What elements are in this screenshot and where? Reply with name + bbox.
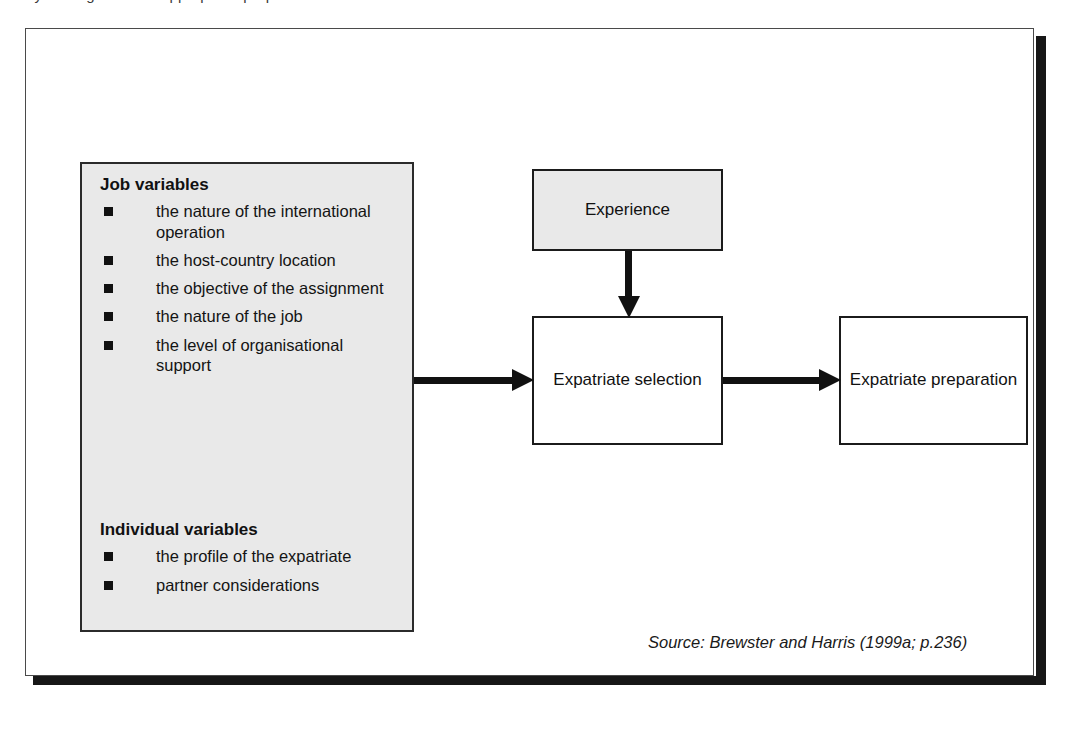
expatriate-preparation-box-label: Expatriate preparation [850,369,1017,391]
page-text-sliver-label: by the organisation appropriate preparat… [26,0,321,3]
bullet-square-icon [104,312,113,321]
variables-panel: Job variables the nature of the internat… [80,162,414,632]
list-item-label: the nature of the international operatio… [156,202,371,240]
list-item-label: the host-country location [156,251,336,269]
list-item-label: partner considerations [156,576,319,594]
individual-variables-list: the profile of the expatriate partner co… [100,546,400,595]
individual-variables-group: Individual variables the profile of the … [100,519,400,603]
arrow-head [819,369,841,391]
list-item-label: the objective of the assignment [156,279,383,297]
arrow-head [512,369,534,391]
bullet-square-icon [104,552,113,561]
bullet-square-icon [104,341,113,350]
list-item: the objective of the assignment [100,278,400,298]
page-text-sliver: by the organisation appropriate preparat… [0,0,1066,16]
arrow-variables-to-selection-icon [414,369,534,391]
figure-frame-shadow-bottom [33,676,1046,685]
figure-frame: Job variables the nature of the internat… [25,28,1034,676]
arrow-shaft [414,377,514,384]
bullet-square-icon [104,581,113,590]
list-item-label: the nature of the job [156,307,303,325]
expatriate-selection-box-label: Expatriate selection [553,369,701,391]
arrow-experience-to-selection-icon [618,251,640,318]
experience-box: Experience [532,169,723,251]
list-item: the nature of the international operatio… [100,201,400,242]
list-item: the level of organisational support [100,335,400,376]
bullet-square-icon [104,207,113,216]
list-item: partner considerations [100,575,400,595]
list-item: the host-country location [100,250,400,270]
source-caption: Source: Brewster and Harris (1999a; p.23… [648,633,967,652]
individual-variables-heading: Individual variables [100,519,400,540]
arrow-head [618,296,640,318]
expatriate-preparation-box: Expatriate preparation [839,316,1028,445]
job-variables-group: Job variables the nature of the internat… [100,174,400,383]
job-variables-list: the nature of the international operatio… [100,201,400,375]
experience-box-label: Experience [585,199,670,221]
bullet-square-icon [104,284,113,293]
arrow-selection-to-preparation-icon [723,369,841,391]
arrow-shaft [723,377,821,384]
expatriate-selection-box: Expatriate selection [532,316,723,445]
bullet-square-icon [104,256,113,265]
arrow-shaft [625,251,632,299]
list-item-label: the level of organisational support [156,336,343,374]
list-item: the profile of the expatriate [100,546,400,566]
figure-frame-shadow-right [1036,36,1046,684]
job-variables-heading: Job variables [100,174,400,195]
list-item: the nature of the job [100,306,400,326]
list-item-label: the profile of the expatriate [156,547,351,565]
